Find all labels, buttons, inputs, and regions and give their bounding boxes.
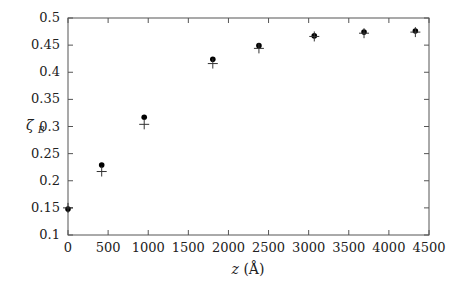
x-tick-label: 4000 — [372, 240, 405, 255]
plus-marker — [139, 119, 149, 129]
y-axis-label-sub: B — [37, 125, 45, 135]
scatter-chart: 050010001500200025003000350040004500 0.1… — [0, 0, 459, 290]
dot-marker — [141, 114, 147, 120]
series-dots — [65, 28, 418, 212]
plus-marker — [208, 59, 218, 69]
plus-marker — [97, 167, 107, 177]
x-axis-label-unit: (Å) — [243, 260, 264, 277]
y-tick-label: 0.5 — [39, 10, 60, 25]
plus-marker — [359, 28, 369, 38]
y-tick-label: 0.25 — [31, 146, 60, 161]
x-tick-label: 0 — [64, 240, 72, 255]
x-tick-label: 2000 — [212, 240, 245, 255]
y-tick-label: 0.2 — [39, 173, 60, 188]
y-axis-ticks: 0.10.150.20.250.30.350.40.450.5 — [31, 10, 429, 242]
y-axis-label-main: ζ — [26, 117, 35, 133]
plus-marker — [410, 27, 420, 37]
y-tick-label: 0.1 — [39, 227, 60, 242]
x-tick-label: 3000 — [292, 240, 325, 255]
x-tick-label: 500 — [96, 240, 121, 255]
x-axis-ticks: 050010001500200025003000350040004500 — [64, 18, 446, 255]
x-tick-label: 1500 — [172, 240, 205, 255]
x-tick-label: 4500 — [412, 240, 445, 255]
x-tick-label: 1000 — [132, 240, 165, 255]
plot-frame — [68, 18, 429, 235]
x-tick-label: 3500 — [332, 240, 365, 255]
y-tick-label: 0.45 — [31, 37, 60, 52]
x-axis-label: z (Å) — [231, 260, 265, 277]
y-tick-label: 0.4 — [39, 64, 60, 79]
y-tick-label: 0.35 — [31, 91, 60, 106]
plus-marker — [63, 203, 73, 213]
y-tick-label: 0.15 — [31, 200, 60, 215]
x-tick-label: 2500 — [252, 240, 285, 255]
plot-border — [68, 18, 429, 235]
data-series — [63, 27, 420, 213]
plus-marker — [309, 31, 319, 41]
plus-marker — [254, 43, 264, 53]
x-axis-label-var: z — [231, 261, 240, 277]
series-crosses — [63, 27, 420, 213]
